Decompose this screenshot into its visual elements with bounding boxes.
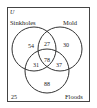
region-floods-only: 88 [44,81,50,87]
set-label-sinkholes: Sinkholes [10,19,36,26]
region-mold-only: 30 [63,42,69,48]
region-sinkholes-floods: 31 [33,62,39,68]
region-all-three: 78 [44,57,50,63]
region-sinkholes-mold: 27 [44,41,50,47]
universe-label: U [10,9,15,15]
region-mold-floods: 37 [56,62,62,68]
set-label-floods: Floods [65,93,83,100]
region-sinkholes-only: 54 [28,43,34,49]
region-none: 25 [11,94,17,100]
venn-diagram: U Sinkholes Mold Floods 54 27 30 78 31 3… [0,0,97,108]
set-label-mold: Mold [63,19,78,26]
